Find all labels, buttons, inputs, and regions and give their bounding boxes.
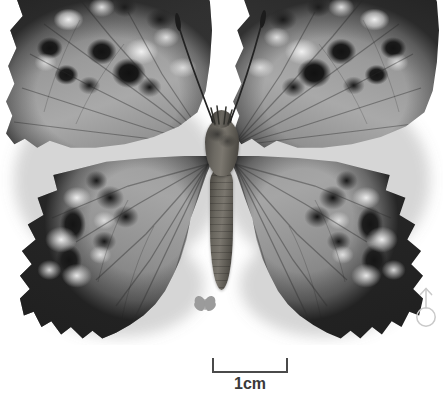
antennae-group — [0, 0, 443, 345]
left-antenna-club — [174, 13, 182, 32]
right-antenna-shaft — [230, 26, 261, 122]
scale-bar — [212, 357, 288, 373]
scale-bar-rule — [212, 371, 288, 373]
butterfly-silhouette-icon — [193, 295, 217, 317]
scale-bar-label: 1cm — [212, 374, 288, 393]
butterfly-specimen — [0, 0, 443, 345]
right-antenna-club — [259, 10, 267, 29]
male-symbol-circle — [417, 308, 435, 326]
male-symbol — [412, 285, 442, 329]
palpi — [211, 106, 232, 124]
specimen-plate: 1cm — [0, 0, 443, 405]
left-antenna-shaft — [180, 30, 213, 122]
